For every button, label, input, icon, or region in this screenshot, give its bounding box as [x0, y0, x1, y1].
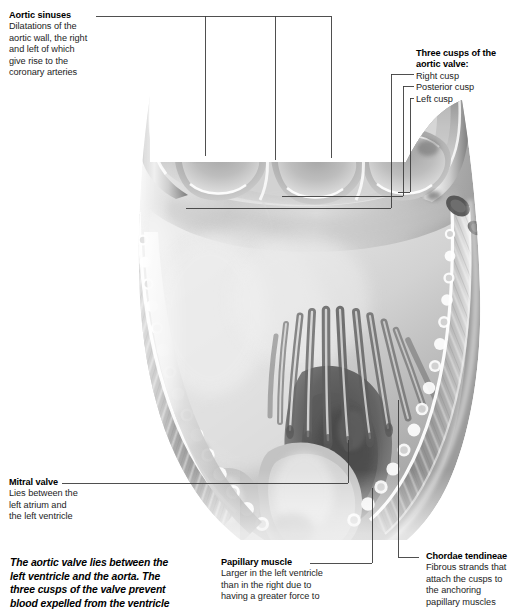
label-mitral-valve: Mitral valve Lies between the left atriu… [9, 477, 119, 523]
label-papillary-muscle-body: Larger in the left ventricle than in the… [221, 568, 371, 602]
label-mitral-valve-body: Lies between the left atrium and the lef… [9, 488, 119, 522]
label-aortic-sinuses-title: Aortic sinuses [9, 10, 125, 21]
label-aortic-sinuses-body: Dilatations of the aortic wall, the righ… [9, 21, 125, 78]
label-aortic-sinuses: Aortic sinuses Dilatations of the aortic… [9, 10, 125, 78]
figure-caption: The aortic valve lies between the left v… [10, 556, 210, 610]
label-papillary-muscle: Papillary muscle Larger in the left vent… [221, 557, 371, 603]
label-three-cusps-title-line1: Three cusps of the [416, 48, 511, 59]
illustration-stage: Aortic sinuses Dilatations of the aortic… [0, 0, 513, 611]
label-chordae-tendineae-title: Chordae tendineae [426, 551, 513, 562]
cusp-item-right: Right cusp [416, 71, 511, 82]
label-three-cusps: Three cusps of the aortic valve: Right c… [416, 48, 511, 105]
label-mitral-valve-title: Mitral valve [9, 477, 119, 488]
label-three-cusps-title-line2: aortic valve: [416, 59, 511, 70]
label-three-cusps-items: Right cusp Posterior cusp Left cusp [416, 71, 511, 105]
label-papillary-muscle-title: Papillary muscle [221, 557, 371, 568]
label-chordae-tendineae: Chordae tendineae Fibrous strands that a… [426, 551, 513, 608]
cusp-item-left: Left cusp [416, 94, 511, 105]
cusp-item-posterior: Posterior cusp [416, 82, 511, 93]
label-chordae-tendineae-body: Fibrous strands that attach the cusps to… [426, 562, 513, 608]
